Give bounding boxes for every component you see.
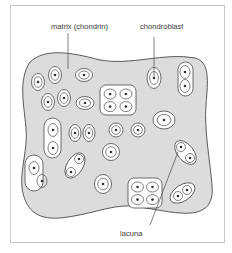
nucleus <box>125 105 128 108</box>
nucleus <box>184 71 187 74</box>
lacuna-pair <box>44 118 61 158</box>
nucleus <box>177 195 180 198</box>
nucleus <box>189 157 192 160</box>
lacuna-cluster <box>128 178 162 208</box>
nucleus <box>70 171 73 174</box>
nucleus <box>125 93 128 96</box>
nucleus <box>83 74 86 77</box>
nucleus <box>54 74 57 77</box>
nucleus <box>102 183 105 186</box>
nucleus <box>33 167 36 170</box>
nucleus <box>88 132 91 135</box>
nucleus <box>163 119 166 122</box>
lacuna-pair <box>25 155 43 191</box>
nucleus <box>52 129 55 132</box>
lacuna-cluster <box>100 85 136 115</box>
nucleus <box>63 97 66 100</box>
nucleus <box>115 129 118 132</box>
nucleus <box>78 158 81 161</box>
nucleus <box>52 147 55 150</box>
nucleus <box>186 189 189 192</box>
nucleus <box>136 198 139 201</box>
nucleus <box>109 105 112 108</box>
nucleus <box>41 180 44 183</box>
nucleus <box>84 102 87 105</box>
cartilage-diagram: matrix (chondrin) chondroblast lacuna <box>0 0 232 253</box>
nucleus <box>47 101 50 104</box>
nucleus <box>151 198 154 201</box>
label-chondroblast: chondroblast <box>140 22 184 31</box>
nucleus <box>74 132 77 135</box>
lacuna-pair <box>178 62 193 96</box>
nucleus <box>37 81 40 84</box>
nucleus <box>137 129 140 132</box>
label-lacuna: lacuna <box>120 229 143 238</box>
nucleus <box>109 93 112 96</box>
nucleus <box>184 85 187 88</box>
nucleus <box>151 186 154 189</box>
label-matrix: matrix (chondrin) <box>51 22 108 31</box>
nucleus <box>136 186 139 189</box>
nucleus <box>110 151 113 154</box>
nucleus <box>180 146 183 149</box>
